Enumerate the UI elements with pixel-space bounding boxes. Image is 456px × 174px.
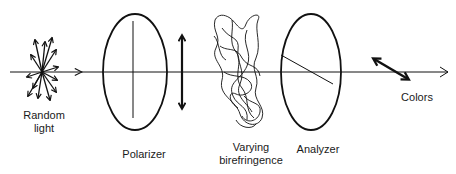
random-light-label-line2: light: [23, 122, 65, 135]
polarizer-label: Polarizer: [122, 148, 165, 161]
birefringence-label-line1: Varying: [219, 141, 283, 154]
random-light-label-line1: Random: [23, 109, 65, 122]
random-light-icon: [27, 38, 58, 100]
colors-polarization-arrow-icon: [374, 59, 408, 79]
analyzer-label: Analyzer: [297, 143, 340, 156]
birefringent-sample-icon: [214, 15, 263, 127]
birefringence-label-line2: birefringence: [219, 154, 283, 167]
random-light-label: Random light: [23, 109, 65, 135]
light-beam: [10, 67, 448, 77]
colors-label: Colors: [401, 91, 433, 104]
birefringence-label: Varying birefringence: [219, 141, 283, 167]
